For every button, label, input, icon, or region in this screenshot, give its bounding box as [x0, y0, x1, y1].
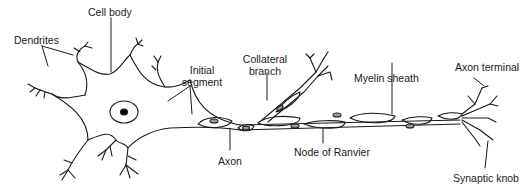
label-axon: Axon	[218, 155, 242, 167]
label-axon-terminal: Axon terminal	[455, 61, 519, 73]
neuron-diagram: Cell body Dendrites Initial segment Coll…	[0, 0, 530, 192]
myelin-sheath-segments	[198, 113, 462, 131]
axon-terminal-shape	[462, 86, 498, 146]
dendrites-shape	[28, 38, 165, 180]
neuron-drawing	[0, 0, 530, 192]
label-node-of-ranvier: Node of Ranvier	[294, 146, 370, 158]
nucleolus-shape	[121, 109, 128, 115]
label-collateral-branch: Collateral branch	[235, 53, 295, 77]
label-dendrites: Dendrites	[14, 34, 59, 46]
label-synaptic-knob: Synaptic knob	[453, 172, 519, 184]
label-collateral-branch-line2: branch	[235, 65, 295, 77]
label-initial-segment-line2: segment	[177, 76, 227, 88]
label-initial-segment: Initial segment	[177, 64, 227, 88]
label-initial-segment-line1: Initial	[177, 64, 227, 76]
axon-shape	[240, 120, 460, 130]
leader-lines	[42, 18, 488, 168]
label-collateral-branch-line1: Collateral	[235, 53, 295, 65]
label-myelin-sheath: Myelin sheath	[354, 72, 419, 84]
label-cell-body: Cell body	[88, 6, 132, 18]
